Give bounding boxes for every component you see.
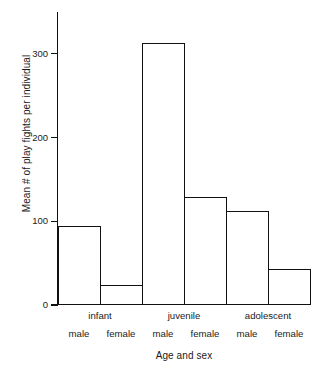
sex-label-adolescent-female: female [268,328,310,340]
x-axis-sex-labels: malefemalemalefemalemalefemale [58,328,310,342]
caption-fragment [18,372,308,381]
sex-label-infant-female: female [100,328,142,340]
bar-infant-male [58,226,101,305]
y-tick-label-100: 100 [18,216,48,226]
y-tick-label-300: 300 [18,49,48,59]
y-tick-label-0: 0 [18,300,48,310]
bar-chart-figure: Mean # of play fights per individual 010… [0,0,325,381]
bars-layer [58,12,310,305]
y-tick-200 [51,137,58,138]
bar-adolescent-female [268,269,311,305]
y-tick-100 [51,221,58,222]
bar-juvenile-female [184,197,227,305]
y-tick-0 [51,304,58,305]
x-axis-group-labels: infantjuvenileadolescent [58,310,310,324]
group-label-adolescent: adolescent [226,310,310,322]
y-tick-label-200: 200 [18,133,48,143]
bar-adolescent-male [226,211,269,305]
group-label-juvenile: juvenile [142,310,226,322]
sex-label-infant-male: male [58,328,100,340]
x-axis-title: Age and sex [58,350,310,361]
bar-infant-female [100,285,143,305]
sex-label-juvenile-male: male [142,328,184,340]
y-tick-300 [51,53,58,54]
group-label-infant: infant [58,310,142,322]
bar-juvenile-male [142,43,185,305]
sex-label-adolescent-male: male [226,328,268,340]
sex-label-juvenile-female: female [184,328,226,340]
